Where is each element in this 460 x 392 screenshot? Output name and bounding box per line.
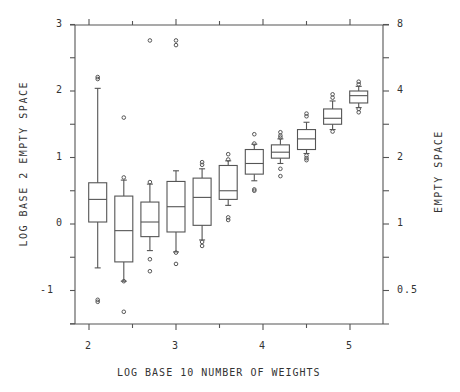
box — [298, 112, 316, 162]
box-iqr — [245, 150, 263, 175]
x-tick-label: 3 — [172, 340, 179, 351]
outlier-point — [279, 174, 283, 178]
outlier-point — [200, 244, 204, 248]
box — [193, 160, 211, 247]
y-tick-label: -1 — [40, 284, 54, 295]
outlier-point — [148, 257, 152, 261]
x-tick-label: 4 — [259, 340, 266, 351]
outlier-point — [279, 167, 283, 171]
outlier-point — [226, 152, 230, 156]
x-axis-label: LOG BASE 10 NUMBER OF WEIGHTS — [117, 367, 321, 378]
outlier-point — [253, 132, 257, 136]
right-y-tick-label: 2 — [397, 151, 404, 162]
box-iqr — [219, 165, 237, 199]
box-iqr — [298, 130, 316, 150]
outlier-point — [200, 240, 204, 244]
right-y-tick-label: 8 — [397, 18, 404, 29]
box-iqr — [193, 178, 211, 225]
outlier-point — [174, 262, 178, 266]
right-y-axis-label: EMPTY SPACE — [433, 122, 444, 222]
outlier-point — [148, 269, 152, 273]
x-tick-label: 2 — [85, 340, 92, 351]
box — [115, 116, 133, 314]
outlier-point — [174, 43, 178, 47]
right-y-tick-label: 0.5 — [397, 284, 418, 295]
box-iqr — [89, 183, 107, 222]
right-y-tick-label: 4 — [397, 84, 404, 95]
outlier-point — [148, 39, 152, 43]
outlier-point — [148, 180, 152, 184]
box-iqr — [350, 91, 368, 103]
y-tick-label: 2 — [56, 84, 63, 95]
box — [350, 80, 368, 114]
box — [219, 152, 237, 221]
box — [271, 130, 289, 177]
box-iqr — [115, 196, 133, 262]
box — [245, 132, 263, 192]
outlier-point — [122, 176, 126, 180]
box — [89, 75, 107, 303]
box-series — [89, 39, 368, 314]
box-iqr — [324, 109, 342, 124]
plot-frame — [70, 19, 389, 330]
right-y-tick-label: 1 — [397, 217, 404, 228]
outlier-point — [331, 130, 335, 134]
box — [324, 93, 342, 134]
left-y-axis-label: LOG BASE 2 EMPTY SPACE — [18, 97, 29, 247]
outlier-point — [174, 39, 178, 43]
box — [141, 39, 159, 273]
box-iqr — [141, 202, 159, 237]
outlier-point — [122, 310, 126, 314]
outlier-point — [122, 116, 126, 120]
box-plot-chart — [0, 0, 460, 392]
box-iqr — [271, 145, 289, 158]
y-tick-label: 3 — [56, 18, 63, 29]
y-tick-label: 0 — [56, 217, 63, 228]
y-tick-label: 1 — [56, 151, 63, 162]
x-tick-label: 5 — [346, 340, 353, 351]
box — [167, 39, 185, 266]
